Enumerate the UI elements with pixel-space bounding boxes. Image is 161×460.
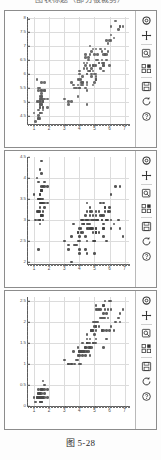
matplotlib-toolbar-2[interactable] (135, 151, 156, 287)
scatter-point (83, 223, 86, 226)
scatter-point (90, 219, 93, 222)
y-axis-minor-tick (27, 339, 29, 340)
gridline-horizontal (28, 32, 129, 33)
help-icon[interactable] (140, 110, 153, 123)
home-icon[interactable] (140, 294, 153, 307)
help-icon[interactable] (140, 250, 153, 263)
plot-area-2[interactable]: 123456722.533.544.5 (5, 151, 135, 287)
scatter-point (86, 202, 89, 205)
scatter-point (89, 354, 92, 357)
scatter-point (114, 185, 117, 188)
y-axis-minor-tick (27, 264, 29, 265)
scatter-point (105, 312, 108, 315)
scatter-point (81, 84, 84, 87)
scatter-point (104, 308, 107, 311)
y-axis-minor-tick (27, 347, 29, 348)
y-axis-minor-tick (27, 159, 29, 160)
y-axis-minor-tick (27, 30, 29, 31)
save-icon[interactable] (140, 360, 153, 373)
y-axis-minor-tick (27, 68, 29, 69)
scatter-point (117, 219, 120, 222)
home-icon[interactable] (140, 154, 153, 167)
y-axis-minor-tick (27, 74, 29, 75)
scatter-point (102, 235, 105, 238)
y-axis-minor-tick (27, 82, 29, 83)
back-icon[interactable] (140, 95, 153, 108)
scatter-point (87, 56, 90, 59)
scatter-point (83, 67, 86, 70)
scatter-point (43, 81, 46, 84)
scatter-point (70, 235, 73, 238)
zoom-rect-icon[interactable] (140, 327, 153, 340)
scatter-point (110, 308, 113, 311)
scatter-point (108, 206, 111, 209)
y-axis-minor-tick (27, 80, 29, 81)
scatter-point (37, 109, 40, 112)
scatter-point (90, 210, 93, 213)
y-axis-minor-tick (27, 21, 29, 22)
subplots-icon[interactable] (140, 62, 153, 75)
scatter-panel-1: 12345674.555.566.577.58 (4, 10, 157, 148)
scatter-point (96, 53, 99, 56)
scatter-point (84, 87, 87, 90)
scatter-point (110, 325, 113, 328)
scatter-point (102, 346, 105, 349)
scatter-point (93, 252, 96, 255)
scatter-point (72, 84, 75, 87)
scatter-point (89, 338, 92, 341)
y-axis-minor-tick (27, 247, 29, 248)
y-axis-minor-tick (27, 38, 29, 39)
scatter-point (90, 75, 93, 78)
scatter-point (78, 235, 81, 238)
scatter-point (78, 240, 81, 243)
scatter-point (81, 219, 84, 222)
toolbar-separator (141, 77, 152, 78)
move-icon[interactable] (140, 169, 153, 182)
back-icon[interactable] (140, 375, 153, 388)
axes-3[interactable]: 123456700.511.522.5 (27, 297, 129, 407)
scatter-point (119, 25, 122, 28)
figure-page: 图表标题（部分被裁剪） 12345674.555.566.577.58 1234… (0, 0, 161, 460)
zoom-rect-icon[interactable] (140, 47, 153, 60)
back-icon[interactable] (140, 235, 153, 248)
save-icon[interactable] (140, 80, 153, 93)
home-icon[interactable] (140, 14, 153, 27)
scatter-point (110, 193, 113, 196)
plot-area-3[interactable]: 123456700.511.522.5 (5, 291, 135, 429)
scatter-point (98, 325, 101, 328)
subplots-icon[interactable] (140, 202, 153, 215)
scatter-point (37, 87, 40, 90)
scatter-point (101, 329, 104, 332)
scatter-point (86, 227, 89, 230)
y-axis-minor-tick (27, 18, 29, 19)
y-axis-minor-tick (27, 102, 29, 103)
scatter-panel-3: 123456700.511.522.5 (4, 290, 157, 430)
y-axis-minor-tick (27, 201, 29, 202)
scatter-point (105, 39, 108, 42)
y-axis-minor-tick (27, 222, 29, 223)
scatter-point (98, 231, 101, 234)
y-axis-minor-tick (27, 343, 29, 344)
scatter-point (40, 388, 43, 391)
axes-1[interactable]: 12345674.555.566.577.58 (27, 17, 129, 125)
y-axis-minor-tick (27, 356, 29, 357)
matplotlib-toolbar-1[interactable] (135, 11, 156, 147)
move-icon[interactable] (140, 309, 153, 322)
subplots-icon[interactable] (140, 342, 153, 355)
plot-area-1[interactable]: 12345674.555.566.577.58 (5, 11, 135, 147)
matplotlib-toolbar-3[interactable] (135, 291, 156, 429)
scatter-point (46, 396, 49, 399)
y-axis-minor-tick (27, 331, 29, 332)
zoom-rect-icon[interactable] (140, 187, 153, 200)
y-axis-minor-tick (27, 52, 29, 53)
save-icon[interactable] (140, 220, 153, 233)
scatter-point (67, 248, 70, 251)
scatter-point (72, 350, 75, 353)
help-icon[interactable] (140, 390, 153, 403)
gridline-horizontal (28, 262, 129, 263)
move-icon[interactable] (140, 29, 153, 42)
axes-2[interactable]: 123456722.533.544.5 (27, 157, 129, 265)
scatter-point (102, 214, 105, 217)
scatter-point (89, 53, 92, 56)
scatter-point (40, 160, 43, 163)
